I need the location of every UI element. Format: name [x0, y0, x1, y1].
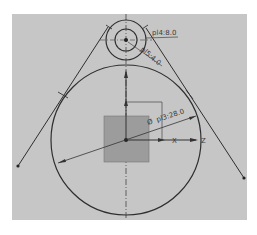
small-pulley-hub — [124, 38, 128, 42]
belt-right-endpoint[interactable] — [242, 176, 245, 179]
z-axis-label: Z — [201, 137, 206, 145]
small-outer-dimension-label[interactable]: pl4:8.0 — [152, 29, 176, 37]
sketch-canvas[interactable]: X Z Ø pl3:28.0 pl4:8.0 pl5:4.0 — [0, 0, 257, 235]
x-axis-label: X — [172, 137, 177, 145]
belt-left-endpoint[interactable] — [16, 164, 19, 167]
